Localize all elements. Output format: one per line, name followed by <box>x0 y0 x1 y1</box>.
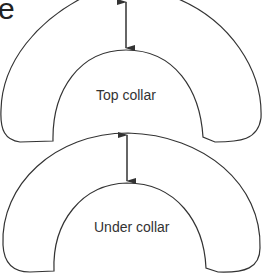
top-collar-shape <box>1 0 261 142</box>
under-collar-shape <box>3 133 260 272</box>
under-collar-label: Under collar <box>94 220 169 234</box>
partial-letter: e <box>0 0 15 24</box>
top-collar-label: Top collar <box>96 88 156 102</box>
